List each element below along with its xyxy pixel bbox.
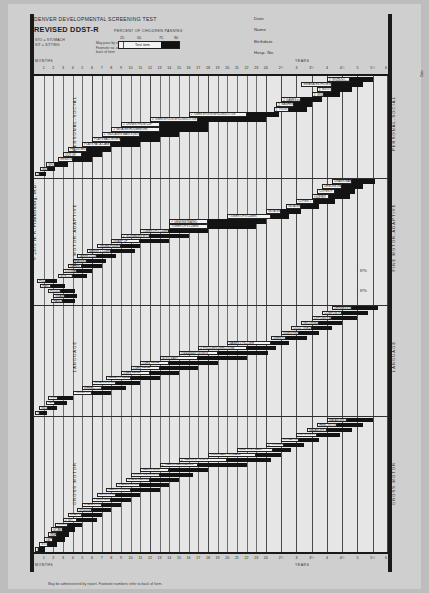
chart-item-bar[interactable]: IMITATES SPEECH SOUNDS <box>92 381 140 385</box>
chart-item-bar[interactable]: COMPOSITION OF 3 — 3 OF 5 <box>322 311 368 315</box>
chart-item-bar[interactable]: VOCALIZES NOT CRYING <box>39 406 57 410</box>
chart-item-bar[interactable]: DADA OR MAMA, SPECIFIC <box>106 376 159 380</box>
field-hosp-no[interactable]: Hosp. No. <box>254 50 364 55</box>
chart-item-bar[interactable]: STOOPS & RECOVERS <box>131 473 194 477</box>
item-label: DUMPS RAISIN — DEMONSTRATED <box>173 219 205 223</box>
chart-item-bar[interactable]: BROAD JUMP <box>281 438 319 442</box>
chart-item-bar[interactable]: WALKS HOLDING ON FURNITURE <box>106 488 159 492</box>
chart-item-bar[interactable]: 2PULL TO SIT NO HEAD LAG <box>63 518 97 522</box>
chart-item-bar[interactable]: LIFTS HEAD <box>34 552 42 554</box>
chart-item-bar[interactable]: IMITATES ○ <box>286 204 319 208</box>
chart-item-bar[interactable]: SIT HEAD STEADY <box>48 532 69 536</box>
chart-item-bar[interactable]: STO-HEAD UP 45° <box>39 542 57 546</box>
chart-item-bar[interactable]: SEPARATES FROM MOTHER EASILY <box>301 82 362 86</box>
field-date[interactable]: Date <box>254 16 364 21</box>
chart-item-bar[interactable]: SQUEALS <box>48 396 73 400</box>
chart-item-bar[interactable]: STANDS MOMENTARILY <box>116 483 169 487</box>
chart-item-bar[interactable]: DEFINES 6 WORDS 6 OF 9 <box>332 306 378 310</box>
chart-item-bar[interactable]: 2SCRIBBLES SPONTANEOUSLY <box>121 234 189 238</box>
chart-item-bar[interactable]: REGARDS FACE <box>35 172 46 176</box>
chart-item-bar[interactable]: 2DRESSES WITHOUT SUPERVISION <box>327 77 373 81</box>
chart-item-bar[interactable]: BALANCES ON 1 FOOT 5 SECONDS <box>307 428 353 432</box>
chart-item-bar[interactable]: SMILES SPONTANEOUSLY <box>46 162 68 166</box>
chart-item-bar[interactable]: EQUAL MOVEMENTS <box>35 547 45 551</box>
chart-item-bar[interactable]: COPIES ✕ <box>317 189 355 193</box>
chart-item-bar[interactable]: NEAT PINCER GRASP OF RAISIN <box>111 239 169 243</box>
chart-item-bar[interactable]: HANDS TOGETHER <box>51 299 74 303</box>
chart-item-bar[interactable]: GETS TO SITTING <box>97 493 140 497</box>
chart-item-bar[interactable]: TOWER OF 2 CUBES <box>140 229 208 233</box>
chart-item-bar[interactable]: 2USES SPOON SPILLING LITTLE <box>189 112 279 116</box>
chart-item-bar[interactable]: STO-HEAD UP 90° <box>44 537 65 541</box>
chart-item-bar[interactable]: PLAYS BALL WITH EXAMINER <box>92 137 160 141</box>
chart-item-bar[interactable]: PLAYS PAT-A-CAKE <box>82 142 140 146</box>
chart-item-bar[interactable]: 2WASHES & DRIES HANDS <box>276 102 312 106</box>
chart-item-bar[interactable]: OPPOSITE ANALOGIES 2 OF 3 <box>312 316 358 320</box>
chart-item-bar[interactable]: KICKS BALL FORWARD <box>208 453 281 457</box>
bar-segment-75-90 <box>169 468 208 472</box>
chart-item-bar[interactable]: JUMPS IN PLACE <box>237 448 291 452</box>
chart-item-bar[interactable]: 2DUMPS RAISIN — DEMONSTRATED <box>169 219 266 223</box>
chart-item-bar[interactable]: BANGS 2 CUBES HELD IN HANDS <box>87 249 135 253</box>
chart-item-bar[interactable]: 2PUTS ON CLOTHING <box>274 107 307 111</box>
chart-item-bar[interactable]: STANDS HOLDING ON <box>82 503 121 507</box>
chart-item-bar[interactable]: LAUGHS <box>46 401 67 405</box>
chart-item-bar[interactable]: BALANCES ON 1 FOOT 10 SECONDS <box>327 418 373 422</box>
chart-item-bar[interactable]: LOOKS FOR YARN <box>63 269 92 273</box>
chart-item-bar[interactable]: DADA OR MAMA, NONSPECIFIC <box>82 386 125 390</box>
field-birthdate[interactable]: Birthdate <box>254 39 364 44</box>
chart-item-bar[interactable]: 3 WORDS OTHER THAN MAMA, DADA <box>140 361 217 365</box>
chart-item-bar[interactable]: STANDS ALONE WELL <box>126 478 179 482</box>
chart-item-bar[interactable]: FOLLOWS TO MIDLINE <box>37 279 57 283</box>
chart-item-bar[interactable]: ROLLS OVER <box>55 523 82 527</box>
chart-item-bar[interactable]: 2WALKS UP STEPS <box>179 458 271 462</box>
chart-item-bar[interactable]: 2FOLLOWS DIRECTIONS <box>198 346 276 350</box>
chart-item-bar[interactable]: TURNS TO VOICE <box>73 391 112 395</box>
chart-item-bar[interactable]: HOPS ON 1 FOOT <box>296 433 339 437</box>
chart-item-bar[interactable]: HEEL-TO-TOE WALK <box>317 423 363 427</box>
chart-item-bar[interactable]: USES PLURALS <box>271 336 307 340</box>
abbreviation-sit: SIT = SITTING <box>35 43 59 47</box>
chart-item-bar[interactable]: GIVES FIRST & LAST NAME <box>281 331 319 335</box>
chart-item-bar[interactable]: COMBINES 2 DIFFERENT WORDS <box>179 351 268 355</box>
chart-item-bar[interactable]: GRASPS RATTLE <box>53 294 77 298</box>
chart-item-bar[interactable]: DEMONSTRATES 3 PARTS <box>322 184 363 188</box>
chart-item-bar[interactable]: PICKS LONGER LINE 3/3 <box>312 194 350 198</box>
chart-item-bar[interactable]: RECOGNIZES COLORS 3 OF 4 <box>301 321 342 325</box>
chart-item-bar[interactable]: RESPONDS TO BELL <box>35 411 47 415</box>
chart-item-bar[interactable]: 1 WORD OTHER THAN MAMA, DADA <box>121 371 179 375</box>
chart-item-bar[interactable]: PASSES CUBE <box>73 259 107 263</box>
chart-item-bar[interactable]: SITS WITHOUT SUPPORT <box>77 508 111 512</box>
chart-item-bar[interactable]: 2BUTTONS UP <box>317 87 353 91</box>
chart-item-bar[interactable]: 2THROWS BALL OVERHAND <box>266 443 304 447</box>
chart-item-bar[interactable]: 2INDICATES WANTS (NOT CRY) <box>102 132 179 136</box>
chart-item-bar[interactable]: THUMB-FINGER GRASP <box>97 244 140 248</box>
chart-item-bar[interactable]: POINTS TO 1 NAMED BODY PART <box>160 356 247 360</box>
chart-item-bar[interactable]: DRAWS MAN 6 PARTS <box>332 179 375 183</box>
chart-item-bar[interactable]: 2PLAYS INTERACTIVE GAMES e.g. TAG <box>281 97 322 101</box>
chart-item-bar[interactable]: SMILES RESPONSIVELY <box>40 167 55 171</box>
tick-month-14: 14 <box>167 556 171 560</box>
chart-item-bar[interactable]: TOWER OF 8 CUBES <box>227 214 289 218</box>
bar-segment-75-90 <box>312 326 332 330</box>
chart-item-bar[interactable]: COPIES ○ <box>296 199 334 203</box>
chart-item-bar[interactable]: NAMES 1 PICTURE <box>227 341 289 345</box>
chart-item-bar[interactable]: 2DRESSES WITH SUPERVISION <box>312 92 340 96</box>
chart-item-bar[interactable]: FOLLOWS PAST MIDLINE <box>40 284 65 288</box>
chart-item-bar[interactable]: 2IMITATES HOUSEWORK <box>111 127 208 131</box>
chart-item-bar[interactable]: COMPREHENDS COLD, TIRED, HUNGRY 2 OF 3 <box>291 326 332 330</box>
bar-segment-25-75: IMITATES ○ <box>286 204 301 208</box>
chart-item-bar[interactable]: IMITATES VERTICAL LINE <box>266 209 302 213</box>
chart-item-bar[interactable]: 2USES SPOON SPILLING LITTLE <box>150 117 266 121</box>
chart-item-bar[interactable]: 2DRINKS FROM CUP <box>121 122 208 126</box>
chart-item-bar[interactable]: FOLLOWS 180° <box>48 289 74 293</box>
tick-month-8: 8 <box>110 556 112 560</box>
chart-item-bar[interactable]: PULLS SELF TO STAND <box>92 498 131 502</box>
field-name[interactable]: Name <box>254 27 364 32</box>
chart-item-bar[interactable]: TAKES 2 CUBES <box>77 254 116 258</box>
chart-item-bar[interactable]: 2 WORDS OTHER THAN MAMA, DADA <box>131 366 199 370</box>
chart-item-bar[interactable]: 2WALKS BACKWARDS <box>160 463 247 467</box>
chart-item-bar[interactable]: WALKS WELL <box>140 468 208 472</box>
chart-item-bar[interactable]: TOWER OF 4 CUBES <box>169 224 256 228</box>
chart-item-bar[interactable]: WORKS FOR TOY OUT OF REACH <box>63 152 102 156</box>
